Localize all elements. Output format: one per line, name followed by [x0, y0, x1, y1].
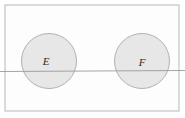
venn-diagram-figure: E F — [0, 0, 185, 118]
venn-diagram-canvas: E F — [0, 0, 185, 118]
set-f-label: F — [138, 56, 146, 68]
set-e-label: E — [42, 55, 50, 67]
